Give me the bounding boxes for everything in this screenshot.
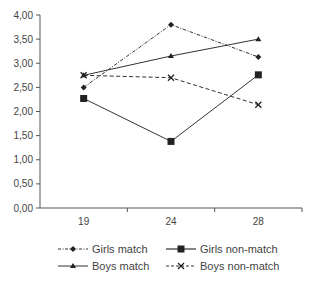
triangle-marker-icon bbox=[255, 36, 261, 41]
series-boys-match bbox=[81, 36, 262, 77]
y-tick-label: 0,50 bbox=[14, 178, 34, 189]
y-tick-label: 3,00 bbox=[14, 58, 34, 69]
legend-item-boys-match: Boys match bbox=[58, 258, 149, 274]
legend-label: Girls match bbox=[92, 243, 148, 255]
y-tick-label: 1,50 bbox=[14, 130, 34, 141]
legend-label: Boys match bbox=[92, 260, 149, 272]
y-tick-label: 1,00 bbox=[14, 154, 34, 165]
y-tick-label: 3,50 bbox=[14, 34, 34, 45]
square-marker-icon bbox=[255, 71, 262, 78]
legend-item-girls-match: Girls match bbox=[58, 241, 148, 257]
series-group bbox=[80, 22, 262, 145]
legend-item-boys-nonmatch: Boys non-match bbox=[166, 258, 279, 274]
x-dashed-line-icon bbox=[166, 261, 196, 271]
line-chart: 0,000,501,001,502,002,503,003,504,00 192… bbox=[0, 0, 309, 240]
series-girls-non-match bbox=[80, 71, 262, 145]
legend-label: Boys non-match bbox=[200, 260, 279, 272]
diamond-marker-icon bbox=[168, 22, 174, 28]
triangle-solid-line-icon bbox=[58, 261, 88, 271]
diamond-marker-icon bbox=[255, 54, 261, 60]
x-tick-label: 19 bbox=[78, 216, 90, 227]
diamond-dashdot-line-icon bbox=[58, 244, 88, 254]
x-axis: 192428 bbox=[40, 208, 302, 227]
legend-item-girls-nonmatch: Girls non-match bbox=[166, 241, 278, 257]
square-marker-icon bbox=[168, 138, 175, 145]
square-marker-icon bbox=[80, 95, 87, 102]
x-marker-icon bbox=[255, 102, 261, 108]
legend-label: Girls non-match bbox=[200, 243, 278, 255]
x-tick-label: 24 bbox=[165, 216, 177, 227]
y-tick-label: 2,00 bbox=[14, 106, 34, 117]
x-tick-label: 28 bbox=[253, 216, 265, 227]
series-boys-non-match bbox=[81, 72, 262, 107]
y-tick-label: 2,50 bbox=[14, 82, 34, 93]
y-tick-label: 4,00 bbox=[14, 10, 34, 21]
y-axis: 0,000,501,001,502,002,503,003,504,00 bbox=[14, 10, 40, 214]
y-tick-label: 0,00 bbox=[14, 203, 34, 214]
square-solid-line-icon bbox=[166, 244, 196, 254]
